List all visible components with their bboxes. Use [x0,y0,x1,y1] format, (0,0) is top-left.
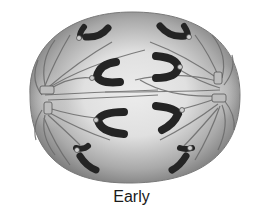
cell-division-illustration [0,0,263,213]
figure-caption: Early [0,188,263,206]
